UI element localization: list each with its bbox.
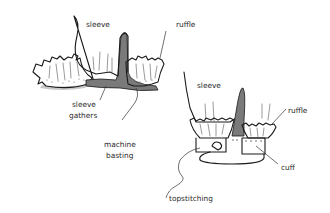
- left-ruffle-folds: [49, 62, 79, 80]
- right-ruffle-left-folds: [200, 124, 224, 136]
- right-ruffle-left-section: [190, 118, 234, 138]
- left-gathers-leader: [100, 86, 106, 100]
- left-ruffle-left-section: [33, 54, 92, 88]
- cuff-label: cuff: [281, 163, 296, 172]
- left-ruffle-label: ruffle: [176, 20, 196, 29]
- machine-basting-label-line2: basting: [106, 151, 134, 160]
- right-ruffle-leader: [272, 109, 286, 124]
- left-basting-band: [86, 32, 158, 90]
- right-ruffle-right-section: [242, 123, 276, 138]
- left-ruffle-right-folds: [136, 64, 157, 80]
- right-ruffle-label: ruffle: [288, 106, 308, 115]
- right-sleeve: [184, 72, 236, 122]
- left-ruffle-leader: [160, 31, 166, 58]
- sleeve-gathers-label-line1: sleeve: [72, 100, 96, 109]
- left-ruffle-shadow: [40, 84, 88, 90]
- left-gather-dots: [46, 78, 84, 83]
- left-sleeve-gather-lines: [93, 52, 112, 72]
- sleeve-gathers-label-line2: gathers: [69, 111, 97, 120]
- cuff-stitch-dashes: [232, 140, 262, 141]
- topstitching-label: topstitching: [169, 194, 213, 203]
- machine-basting-label-line1: machine: [104, 140, 136, 149]
- sleeve-ruffle-diagram: sleeve ruffle sleeve gathers machine bas…: [0, 0, 330, 213]
- right-panel: sleeve ruffle cuff topstitching: [166, 72, 308, 203]
- left-sleeve-label: sleeve: [86, 20, 110, 29]
- topstitching-leader: [166, 148, 200, 198]
- left-basting-leader: [122, 88, 138, 120]
- left-panel: sleeve ruffle sleeve gathers machine bas…: [33, 16, 196, 160]
- right-sleeve-label: sleeve: [197, 81, 221, 90]
- cuff-band-right: [242, 138, 265, 154]
- right-ruffle-right-folds: [250, 128, 264, 137]
- cuff-fold-detail: [212, 142, 222, 150]
